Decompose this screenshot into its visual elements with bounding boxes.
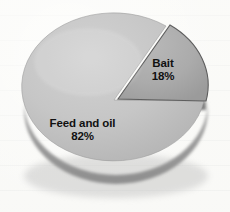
slice-value-feed-and-oil: 82% <box>0 130 165 143</box>
slice-label-bait-text: Bait <box>152 57 173 69</box>
slice-label-bait: Bait 18% <box>120 57 206 83</box>
slice-value-bait: 18% <box>120 70 206 83</box>
pie-chart-graphic <box>0 0 230 212</box>
pie-chart-figure: Feed and oil 82% Bait 18% <box>0 0 230 212</box>
slice-label-feed-and-oil-text: Feed and oil <box>50 117 116 129</box>
slice-label-feed-and-oil: Feed and oil 82% <box>0 117 165 143</box>
